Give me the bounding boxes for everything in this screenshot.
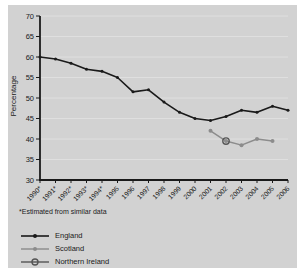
- series-marker-scotland: [271, 139, 275, 143]
- legend-item-northern-ireland: Northern Ireland: [20, 255, 109, 268]
- x-tick-label: 2001: [198, 185, 214, 201]
- y-tick-label: 45: [26, 114, 34, 123]
- series-marker-england: [116, 76, 119, 79]
- legend-item-england: England: [20, 229, 109, 242]
- legend-label-england: England: [55, 231, 83, 240]
- x-tick-label: 1992*: [56, 185, 74, 203]
- y-axis-title: Percentage: [9, 46, 19, 146]
- series-marker-england: [209, 119, 212, 122]
- series-marker-england: [39, 56, 42, 59]
- chart-panel: 3035404550556065701990*1991*1992*1993*19…: [8, 5, 297, 268]
- legend-label-northern-ireland: Northern Ireland: [55, 257, 109, 266]
- x-tick-label: 1995: [105, 185, 121, 201]
- series-marker-england: [287, 109, 290, 112]
- series-marker-england: [163, 101, 166, 104]
- series-marker-england: [256, 111, 259, 114]
- x-tick-label: 2002: [213, 185, 229, 201]
- series-marker-england: [178, 111, 181, 114]
- series-marker-england: [194, 117, 197, 120]
- series-marker-scotland: [224, 139, 228, 143]
- x-tick-label: 1998: [151, 185, 167, 201]
- x-tick-label: 2004: [244, 185, 260, 201]
- y-tick-label: 40: [26, 135, 34, 144]
- x-tick-label: 1991*: [41, 185, 59, 203]
- y-tick-label: 65: [26, 32, 34, 41]
- legend-label-scotland: Scotland: [55, 244, 84, 253]
- series-marker-england: [271, 105, 274, 108]
- x-tick-label: 1994*: [87, 185, 105, 203]
- series-line-england: [40, 57, 288, 121]
- series-marker-scotland: [240, 143, 244, 147]
- x-tick-label: 1996: [120, 185, 136, 201]
- scotland-line-sample: [20, 244, 50, 254]
- northern-ireland-line-sample: [20, 257, 50, 267]
- series-marker-england: [147, 88, 150, 91]
- chart-footnote: *Estimated from similar data: [19, 208, 107, 215]
- y-tick-label: 55: [26, 73, 34, 82]
- y-tick-label: 35: [26, 155, 34, 164]
- legend: England Scotland Northern Ireland: [20, 229, 109, 268]
- series-marker-england: [240, 109, 243, 112]
- series-marker-england: [54, 58, 57, 61]
- england-line-sample: [20, 231, 50, 241]
- series-marker-scotland: [255, 137, 259, 141]
- series-marker-england: [85, 68, 88, 71]
- series-marker-england: [225, 115, 228, 118]
- y-tick-label: 50: [26, 94, 34, 103]
- x-tick-label: 2003: [229, 185, 245, 201]
- x-tick-label: 1999: [167, 185, 183, 201]
- y-tick-label: 70: [26, 12, 34, 21]
- series-marker-england: [70, 62, 73, 65]
- series-marker-england: [132, 90, 135, 93]
- legend-item-scotland: Scotland: [20, 242, 109, 255]
- y-tick-label: 60: [26, 53, 34, 62]
- x-tick-label: 1993*: [72, 185, 90, 203]
- x-tick-label: 2006: [275, 185, 291, 201]
- series-marker-scotland: [209, 129, 213, 133]
- x-tick-label: 1997: [136, 185, 152, 201]
- x-tick-label: 2005: [260, 185, 276, 201]
- series-marker-england: [101, 70, 104, 73]
- series-line-scotland: [211, 131, 273, 145]
- x-tick-label: 2000: [182, 185, 198, 201]
- x-tick-label: 1990*: [25, 185, 43, 203]
- y-tick-label: 30: [26, 176, 34, 185]
